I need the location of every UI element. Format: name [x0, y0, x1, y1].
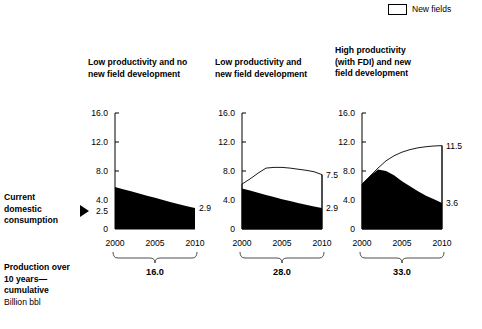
y-tick-label: 0: [350, 224, 355, 234]
end-value-label: 2.9: [199, 203, 211, 213]
end-value-label: 2.9: [326, 203, 338, 213]
panel-title-high-fdi-new: High productivity (with FDI) and new fie…: [335, 45, 453, 80]
unit-label: Billion bbl: [4, 297, 94, 309]
cumulative-brace: [360, 252, 444, 263]
y-tick-label: 12.0: [91, 137, 108, 147]
y-tick-label: 16.0: [91, 108, 108, 118]
cumulative-total-label: 33.0: [393, 267, 411, 277]
y-tick-label: 8.0: [96, 166, 108, 176]
production-cumulative-label: Production over 10 years— cumulative: [4, 262, 94, 297]
cumulative-brace: [113, 252, 197, 263]
chart-legend: New fields: [388, 4, 451, 15]
x-tick-label: 2005: [392, 238, 411, 248]
y-tick-label: 12.0: [218, 137, 235, 147]
y-tick-label: 8.0: [223, 166, 235, 176]
y-tick-label: 2.5: [96, 206, 108, 216]
cumulative-brace: [240, 252, 324, 263]
legend-label-new-fields: New fields: [412, 5, 451, 14]
panel-low-no-new: 16.012.08.04.02.502.920002005201016.0: [91, 108, 211, 277]
panel-low-with-new: 16.012.08.04.007.52.920002005201028.0: [218, 108, 338, 277]
cumulative-total-label: 16.0: [146, 267, 164, 277]
triangle-right-icon: [80, 205, 89, 217]
panel-high-fdi-new: 16.012.08.04.0011.53.620002005201033.0: [338, 108, 462, 277]
end-value-label: 3.6: [446, 198, 458, 208]
area-existing-fields: [115, 187, 195, 229]
y-tick-label: 8.0: [343, 166, 355, 176]
y-tick-label: 4.0: [343, 195, 355, 205]
y-tick-label: 16.0: [338, 108, 355, 118]
end-value-label: 11.5: [446, 141, 462, 151]
current-consumption-label: Current domestic consumption: [4, 192, 80, 227]
y-tick-label: 0: [103, 224, 108, 234]
panel-title-low-no-new: Low productivity and no new field develo…: [88, 57, 208, 80]
x-tick-label: 2005: [145, 238, 164, 248]
panel-title-low-with-new: Low productivity and new field developme…: [215, 57, 327, 80]
x-tick-label: 2005: [272, 238, 291, 248]
x-tick-label: 2010: [432, 238, 451, 248]
cumulative-total-label: 28.0: [273, 267, 291, 277]
figure-root: New fields Low productivity and no new f…: [0, 0, 482, 329]
x-tick-label: 2000: [232, 238, 251, 248]
y-tick-label: 16.0: [218, 108, 235, 118]
y-tick-label: 4.0: [96, 195, 108, 205]
y-tick-label: 0: [230, 224, 235, 234]
y-tick-label: 4.0: [223, 195, 235, 205]
legend-swatch-new-fields: [388, 4, 407, 15]
x-tick-label: 2000: [105, 238, 124, 248]
x-tick-label: 2010: [312, 238, 331, 248]
x-tick-label: 2010: [185, 238, 204, 248]
x-tick-label: 2000: [352, 238, 371, 248]
y-tick-label: 12.0: [338, 137, 355, 147]
end-value-label: 7.5: [326, 170, 338, 180]
